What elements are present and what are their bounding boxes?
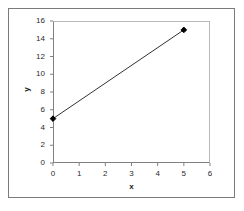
y-tick-label: 10 [23, 69, 45, 78]
x-tick-label: 4 [150, 169, 166, 178]
y-tick-label: 4 [23, 123, 45, 132]
y-tick-label: 6 [23, 105, 45, 114]
x-tick-label: 1 [71, 169, 87, 178]
x-tick-label: 2 [97, 169, 113, 178]
chart-figure: 02468101214160123456 x y [0, 0, 244, 211]
data-point-marker [50, 116, 56, 122]
y-axis-ticks [50, 21, 53, 163]
y-axis-title: y [22, 83, 31, 97]
y-tick-label: 2 [23, 140, 45, 149]
x-axis-title: x [53, 182, 210, 191]
y-tick-label: 0 [23, 158, 45, 167]
y-tick-label: 14 [23, 34, 45, 43]
x-tick-label: 0 [45, 169, 61, 178]
series-line [53, 30, 184, 119]
data-series-layer [50, 27, 186, 121]
x-tick-label: 6 [202, 169, 218, 178]
x-axis-ticks [53, 163, 210, 166]
data-point-marker [181, 27, 187, 33]
x-tick-label: 3 [124, 169, 140, 178]
y-tick-label: 12 [23, 52, 45, 61]
x-tick-label: 5 [176, 169, 192, 178]
y-tick-label: 16 [23, 16, 45, 25]
